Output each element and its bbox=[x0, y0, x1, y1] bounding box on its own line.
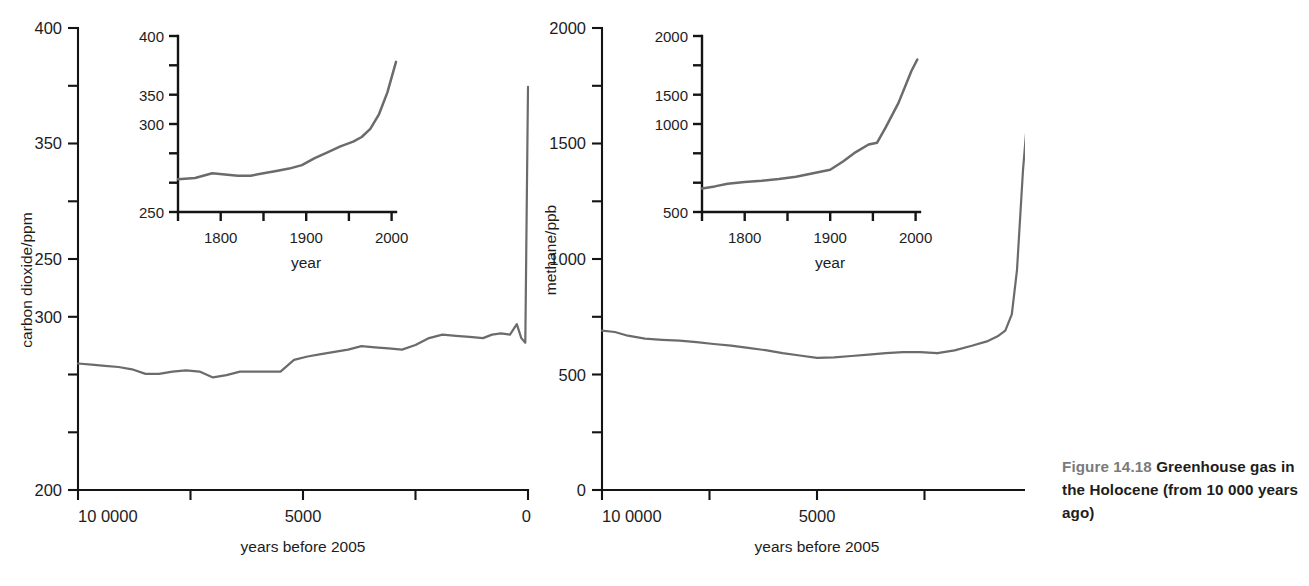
co2-main-xaxis-title: years before 2005 bbox=[241, 538, 366, 555]
svg-text:5000: 5000 bbox=[799, 507, 836, 525]
co2-inset-ytick-labels: 250 300 350 400 bbox=[139, 28, 164, 221]
co2-inset-spine bbox=[178, 36, 396, 212]
chart-panel-methane: 0 500 1000 1500 2000 10 0000 5000 0 year… bbox=[480, 0, 1025, 586]
ch4-main-line bbox=[602, 331, 937, 358]
svg-text:10 0000: 10 0000 bbox=[78, 507, 138, 525]
svg-text:1500: 1500 bbox=[549, 134, 586, 152]
ch4-main-ytick-marks bbox=[592, 28, 602, 490]
svg-text:300: 300 bbox=[34, 308, 62, 326]
ch4-main-xaxis-title: years before 2005 bbox=[755, 538, 880, 555]
svg-text:0: 0 bbox=[577, 481, 586, 499]
svg-text:5000: 5000 bbox=[285, 507, 322, 525]
svg-text:1800: 1800 bbox=[204, 229, 237, 246]
co2-inset-xtick-labels: 1800 1900 2000 bbox=[204, 229, 408, 246]
ch4-inset-xtick-labels: 1800 1900 2000 bbox=[728, 229, 932, 246]
svg-text:250: 250 bbox=[34, 250, 62, 268]
svg-text:2000: 2000 bbox=[375, 229, 408, 246]
ch4-main-series bbox=[602, 97, 1025, 358]
svg-text:1900: 1900 bbox=[290, 229, 323, 246]
co2-main-ytick-marks bbox=[68, 28, 78, 490]
ch4-main-xtick-labels: 10 0000 5000 0 bbox=[602, 507, 1025, 525]
co2-main-ytick-labels: 200 250 300 350 400 bbox=[34, 19, 62, 499]
svg-text:2000: 2000 bbox=[655, 28, 688, 45]
ch4-inset-ytick-marks bbox=[693, 36, 702, 212]
ch4-inset-xtick-marks bbox=[702, 212, 916, 221]
svg-text:200: 200 bbox=[34, 481, 62, 499]
co2-inset-xtick-marks bbox=[178, 212, 392, 221]
svg-text:400: 400 bbox=[139, 28, 164, 45]
chart-panel-carbon-dioxide: 200 250 300 350 400 10 0000 5000 0 years… bbox=[0, 0, 545, 586]
svg-text:500: 500 bbox=[558, 366, 586, 384]
figure-greenhouse-gas-holocene: 200 250 300 350 400 10 0000 5000 0 years… bbox=[0, 0, 1309, 586]
co2-inset-ytick-marks bbox=[169, 36, 178, 212]
ch4-main-yaxis-title: methane/ppb bbox=[542, 205, 559, 296]
ch4-main-xtick-marks bbox=[602, 490, 1025, 500]
svg-text:10 0000: 10 0000 bbox=[602, 507, 662, 525]
co2-inset: 250 300 350 400 1800 1900 2000 year bbox=[139, 28, 408, 271]
ch4-main-axes: 0 500 1000 1500 2000 10 0000 5000 0 year… bbox=[542, 19, 1025, 555]
ch4-main-line-fix bbox=[937, 97, 1025, 353]
co2-main-yaxis-title: carbon dioxide/ppm bbox=[18, 212, 35, 347]
figure-caption: Figure 14.18 Greenhouse gas in the Holoc… bbox=[1062, 455, 1309, 524]
svg-text:500: 500 bbox=[663, 204, 688, 221]
co2-inset-xaxis-title: year bbox=[291, 254, 321, 271]
svg-text:350: 350 bbox=[34, 134, 62, 152]
co2-inset-line bbox=[178, 62, 396, 179]
co2-main-axes: 200 250 300 350 400 10 0000 5000 0 years… bbox=[18, 19, 531, 555]
ch4-inset-xaxis-title: year bbox=[815, 254, 845, 271]
svg-text:400: 400 bbox=[34, 19, 62, 37]
figure-number: Figure 14.18 bbox=[1062, 458, 1152, 475]
co2-main-xtick-marks bbox=[78, 490, 528, 500]
svg-text:1000: 1000 bbox=[655, 116, 688, 133]
ch4-inset-ytick-labels: 500 1000 1500 2000 bbox=[655, 28, 688, 221]
co2-main-xtick-labels: 10 0000 5000 0 bbox=[78, 507, 531, 525]
ch4-inset: 500 1000 1500 2000 1800 1900 2000 year bbox=[655, 28, 933, 271]
svg-text:1800: 1800 bbox=[728, 229, 761, 246]
methane-svg: 0 500 1000 1500 2000 10 0000 5000 0 year… bbox=[480, 0, 1025, 586]
svg-text:300: 300 bbox=[139, 116, 164, 133]
ch4-inset-line bbox=[702, 60, 917, 189]
svg-text:2000: 2000 bbox=[549, 19, 586, 37]
svg-text:350: 350 bbox=[139, 87, 164, 104]
svg-text:1900: 1900 bbox=[814, 229, 847, 246]
svg-text:1500: 1500 bbox=[655, 87, 688, 104]
svg-text:2000: 2000 bbox=[899, 229, 932, 246]
svg-text:250: 250 bbox=[139, 204, 164, 221]
carbon-dioxide-svg: 200 250 300 350 400 10 0000 5000 0 years… bbox=[0, 0, 545, 586]
